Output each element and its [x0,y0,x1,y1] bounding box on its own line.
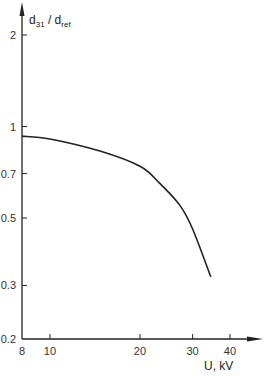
chart: 0.20.30.50.712 810203040 d31 / dref U, k… [0,0,264,376]
y-tick-label: 0.5 [1,212,16,224]
y-axis-arrow-icon [20,2,25,16]
x-tick-label: 30 [187,345,199,357]
x-ticks: 810203040 [19,334,236,357]
data-curve [22,136,211,277]
x-axis-arrow-icon [247,337,263,342]
y-tick-label: 1 [10,121,16,133]
y-tick-label: 0.2 [1,333,16,345]
x-tick-label: 20 [134,345,146,357]
y-ticks: 0.20.30.50.712 [1,29,27,345]
x-tick-label: 10 [44,345,56,357]
x-tick-label: 8 [19,345,25,357]
y-tick-label: 0.7 [1,168,16,180]
x-axis [22,337,263,342]
y-tick-label: 2 [10,29,16,41]
y-axis-title: d31 / dref [29,13,71,29]
x-axis-title: U, kV [204,359,233,373]
y-tick-label: 0.3 [1,279,16,291]
x-tick-label: 40 [224,345,236,357]
y-axis [20,2,25,339]
